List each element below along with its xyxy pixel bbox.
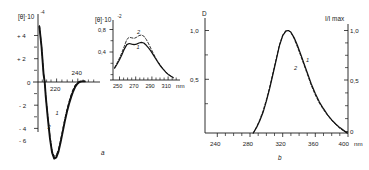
panel-b: D I/I max 1,0 0,5 1,0 0,5 0 240 280 320 … <box>185 0 369 170</box>
panel-a-ytick-label-5: - 6 <box>19 137 27 144</box>
panel-b-right-ytick-label-1: 0,5 <box>350 77 359 84</box>
panel-b-svg: D I/I max 1,0 0,5 1,0 0,5 0 240 280 320 … <box>185 0 369 170</box>
panel-b-left-y-ticks <box>205 31 209 104</box>
panel-b-ytick-label-1: 0,5 <box>190 76 199 83</box>
panel-b-xtick-label-2: 320 <box>275 140 286 147</box>
inset-xtick-label-1: 270 <box>129 83 138 89</box>
panel-a-y-axis-exponent: -4 <box>41 10 46 15</box>
inset-y-axis-exponent: -2 <box>118 14 123 19</box>
inset-x-axis-unit: nm <box>176 82 185 89</box>
inset-curve-label-1: 1 <box>137 44 140 50</box>
panel-b-x-ticks <box>217 133 348 137</box>
panel-a-main-curve-1 <box>39 27 84 159</box>
panel-b-left-y-axis-title: D <box>202 10 207 17</box>
panel-b-xtick-label-4: 400 <box>339 140 350 147</box>
panel-b-caption: b <box>278 154 282 161</box>
inset-xtick-label-0: 250 <box>113 83 122 89</box>
inset-x-ticks <box>120 77 177 81</box>
panel-a-ytick-label-0: + 4 <box>17 32 26 39</box>
panel-b-curve-label-1: 1 <box>306 57 309 63</box>
panel-b-right-y-ticks <box>344 31 348 132</box>
panel-a-inset: [θ]·10 -2 0,8 0,4 250 270 290 310 nm 2 1 <box>95 14 185 90</box>
panel-b-curve-1 <box>253 31 347 134</box>
inset-ytick-label-1: 0,4 <box>98 49 106 55</box>
inset-curve-label-2: 2 <box>136 29 141 35</box>
panel-a-xtick-label-1: 240 <box>72 69 83 76</box>
panel-b-xtick-label-0: 240 <box>210 140 221 147</box>
panel-b-xtick-label-1: 280 <box>243 140 254 147</box>
panel-a-ytick-label-1: + 2 <box>17 55 26 62</box>
panel-b-xtick-label-3: 360 <box>308 140 319 147</box>
panel-a-x-ticks <box>42 79 93 83</box>
panel-a-svg: [θ]·10 -4 + 4 + 2 0 - 2 - 4 - 6 220 240 … <box>0 0 185 170</box>
panel-b-curve-label-2: 2 <box>293 65 298 71</box>
panel-b-axes <box>205 18 348 133</box>
inset-y-axis-title: [θ]·10 <box>95 16 112 24</box>
panel-b-ytick-label-0: 1,0 <box>190 27 199 34</box>
inset-ytick-label-0: 0,8 <box>98 27 106 33</box>
inset-xtick-label-3: 310 <box>162 83 171 89</box>
panel-a-xtick-label-0: 220 <box>50 85 61 92</box>
panel-a-ytick-label-2: 0 <box>27 79 31 86</box>
panel-a-curve-label-1: 1 <box>56 110 59 116</box>
panel-b-right-ytick-label-0: 1,0 <box>350 27 359 34</box>
panel-a: [θ]·10 -4 + 4 + 2 0 - 2 - 4 - 6 220 240 … <box>0 0 185 170</box>
panel-a-ytick-label-4: - 4 <box>19 125 27 132</box>
panel-a-ytick-label-3: - 2 <box>19 102 27 109</box>
inset-xtick-label-2: 290 <box>145 83 154 89</box>
panel-a-curve-label-2: 2 <box>47 124 52 130</box>
panel-b-right-y-axis-title: I/I max <box>325 15 345 22</box>
panel-b-x-axis-unit: nm <box>354 140 363 147</box>
panel-a-y-axis-title: [θ]·10 <box>18 13 35 21</box>
panel-a-caption: a <box>101 149 105 156</box>
inset-y-ticks <box>110 30 114 75</box>
panel-b-curve-2 <box>253 31 347 134</box>
spectroscopy-figure: [θ]·10 -4 + 4 + 2 0 - 2 - 4 - 6 220 240 … <box>0 0 369 170</box>
panel-b-right-ytick-label-2: 0 <box>350 128 354 135</box>
